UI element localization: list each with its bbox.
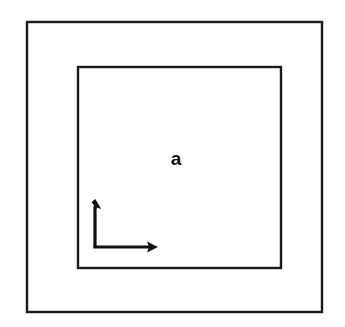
figure-container: a <box>0 0 345 327</box>
region-label-a: a <box>171 148 182 169</box>
figure-canvas: a <box>0 0 345 327</box>
